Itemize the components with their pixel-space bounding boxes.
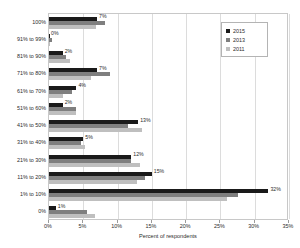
y-axis-tick-label: 11% to 20% <box>2 174 46 180</box>
legend-label: 2011 <box>233 46 245 52</box>
bar-2011 <box>49 111 76 115</box>
bar-group: 1% <box>49 204 287 221</box>
bar-group: 5% <box>49 135 287 152</box>
bar-data-label: 32% <box>270 187 280 192</box>
x-axis-tick-label: 15% <box>145 223 156 230</box>
legend-label: 2015 <box>233 28 245 34</box>
legend-label: 2013 <box>233 37 245 43</box>
legend-item-2011[interactable]: 2011 <box>226 44 265 53</box>
bar-2011 <box>49 214 95 218</box>
bar-group: 4% <box>49 83 287 100</box>
bar-group: 12% <box>49 152 287 169</box>
y-axis-tick-label: 61% to 70% <box>2 88 46 94</box>
y-axis-tick-label: 31% to 40% <box>2 139 46 145</box>
x-axis-tick-label: 5% <box>78 223 86 230</box>
bar-data-label: 13% <box>140 118 150 123</box>
bar-data-label: 7% <box>99 14 107 19</box>
bar-2011 <box>49 94 63 98</box>
bar-group: 13% <box>49 118 287 135</box>
bar-data-label: 1% <box>58 204 66 209</box>
x-axis-title: Percent of respondents <box>48 233 288 240</box>
y-axis-tick-label: 41% to 50% <box>2 122 46 128</box>
y-axis-tick-label: 21% to 30% <box>2 157 46 163</box>
legend-swatch-icon <box>226 29 230 33</box>
y-axis-tick-label: 81% to 90% <box>2 53 46 59</box>
x-axis-tick-label: 35% <box>283 223 294 230</box>
bar-2011 <box>49 59 70 63</box>
x-axis: 0%5%10%15%20%25%30%35% <box>48 220 288 232</box>
legend-item-2013[interactable]: 2013 <box>226 35 265 44</box>
bar-data-label: 2% <box>65 100 73 105</box>
y-axis-tick-label: 91% to 99% <box>2 36 46 42</box>
bar-data-label: 5% <box>85 135 93 140</box>
bar-data-label: 4% <box>78 83 86 88</box>
bar-2011 <box>49 180 137 184</box>
bar-group: 2% <box>49 100 287 117</box>
bar-2011 <box>49 145 85 149</box>
y-axis-tick-label: 71% to 80% <box>2 70 46 76</box>
bar-data-label: 2% <box>65 49 73 54</box>
bar-group: 32% <box>49 187 287 204</box>
bar-2011 <box>49 25 96 29</box>
y-axis-tick-label: 0% <box>2 208 46 214</box>
x-axis-tick-label: 20% <box>180 223 191 230</box>
chart-legend: 201520132011 <box>221 22 268 57</box>
y-axis-tick-label: 1% to 10% <box>2 191 46 197</box>
bar-2011 <box>49 197 227 201</box>
legend-swatch-icon <box>226 38 230 42</box>
bar-2011 <box>49 42 50 46</box>
bar-2011 <box>49 76 91 80</box>
x-axis-tick-label: 30% <box>248 223 259 230</box>
bar-chart: 7%0%2%7%4%2%13%5%12%15%32%1% 100%91% to … <box>0 0 300 248</box>
bar-data-label: 12% <box>133 152 143 157</box>
legend-item-2015[interactable]: 2015 <box>226 26 265 35</box>
x-axis-tick-label: 10% <box>111 223 122 230</box>
bar-data-label: 0% <box>51 31 59 36</box>
bar-data-label: 7% <box>99 66 107 71</box>
bar-data-label: 15% <box>154 169 164 174</box>
y-axis-tick-label: 51% to 60% <box>2 105 46 111</box>
x-axis-tick-label: 0% <box>44 223 52 230</box>
y-axis: 100%91% to 99%81% to 90%71% to 80%61% to… <box>0 13 46 220</box>
legend-swatch-icon <box>226 47 230 51</box>
y-axis-tick-label: 100% <box>2 19 46 25</box>
bar-group: 7% <box>49 66 287 83</box>
bar-2011 <box>49 163 140 167</box>
x-axis-tick-label: 25% <box>214 223 225 230</box>
bar-2011 <box>49 128 142 132</box>
gridline <box>289 14 290 219</box>
bar-group: 15% <box>49 169 287 186</box>
